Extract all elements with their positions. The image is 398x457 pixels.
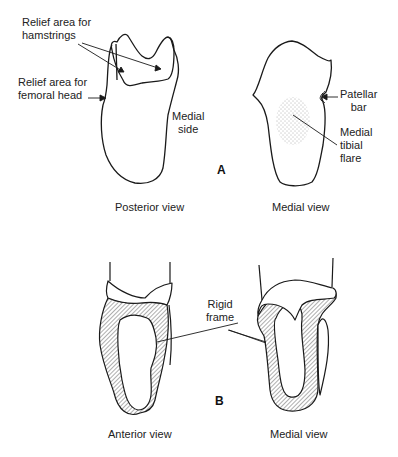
label-tibial-flare-line1: Medial xyxy=(340,126,372,139)
label-medial-side: Medial side xyxy=(172,110,204,136)
label-femoral-head: Relief area for femoral head xyxy=(18,76,87,102)
caption-medial-view-b: Medial view xyxy=(270,428,327,440)
rigid-frame-leaders xyxy=(157,323,266,342)
label-hamstrings-line1: Relief area for xyxy=(22,16,91,29)
label-tibial-flare-line2: tibial xyxy=(340,139,372,152)
medial-view-b-drawing xyxy=(257,258,336,411)
caption-posterior-view: Posterior view xyxy=(115,201,184,213)
hamstrings-arrows xyxy=(78,43,161,101)
label-rigid-frame-line1: Rigid xyxy=(206,298,234,311)
posterior-view-drawing xyxy=(101,34,178,183)
label-hamstrings-line2: hamstrings xyxy=(22,29,91,42)
label-tibial-flare-line3: flare xyxy=(340,152,372,165)
label-patellar-bar-line1: Patellar xyxy=(340,88,377,101)
panel-tag-a: A xyxy=(217,163,226,177)
label-femoral-head-line2: femoral head xyxy=(18,89,87,102)
label-medial-side-line2: side xyxy=(172,123,204,136)
label-rigid-frame-line2: frame xyxy=(206,311,234,324)
tibial-flare-stipple xyxy=(276,97,310,145)
anterior-view-drawing xyxy=(99,262,172,414)
label-patellar-bar-line2: bar xyxy=(340,101,377,114)
label-rigid-frame: Rigid frame xyxy=(206,298,234,324)
label-tibial-flare: Medial tibial flare xyxy=(340,126,372,165)
rigid-frame-leader-medial xyxy=(229,330,266,343)
panel-tag-b: B xyxy=(215,394,224,408)
diagram-canvas xyxy=(0,0,398,457)
label-femoral-head-line1: Relief area for xyxy=(18,76,87,89)
label-hamstrings: Relief area for hamstrings xyxy=(22,16,91,42)
label-medial-side-line1: Medial xyxy=(172,110,204,123)
label-patellar-bar: Patellar bar xyxy=(340,88,377,114)
caption-anterior-view: Anterior view xyxy=(108,428,172,440)
caption-medial-view-a: Medial view xyxy=(272,201,329,213)
